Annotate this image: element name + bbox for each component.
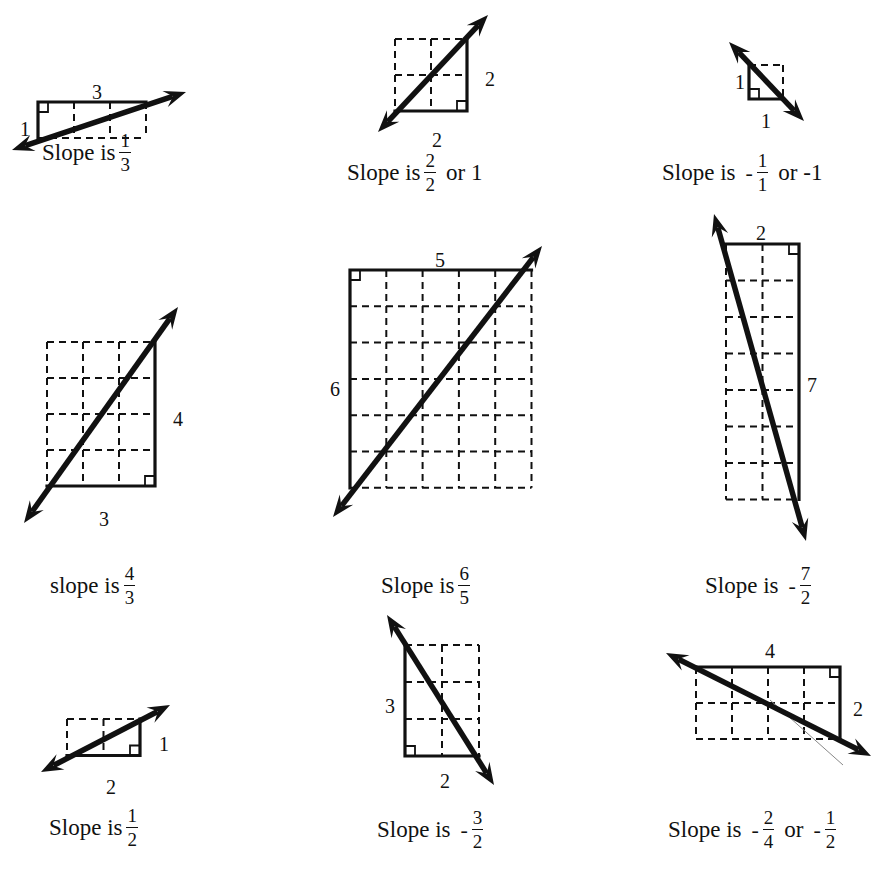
- side-length-label: 1: [20, 118, 30, 140]
- fraction: 3 2: [472, 808, 484, 851]
- side-length-label: 3: [92, 81, 102, 103]
- negative-sign: -: [751, 819, 758, 841]
- caption-prefix: Slope is: [347, 161, 420, 184]
- caption-prefix: Slope is: [381, 574, 454, 597]
- slope-panel-p9: 42: [666, 640, 871, 765]
- caption-prefix: Slope is: [705, 574, 778, 597]
- side-length-label: 2: [485, 68, 495, 90]
- caption-slope-neg-7-2: Slope is - 7 2: [705, 564, 815, 607]
- double-arrow-line: [378, 15, 488, 132]
- slope-panel-p3: 11: [729, 42, 804, 132]
- side-length-label: 4: [173, 408, 183, 430]
- side-length-label: 2: [432, 129, 442, 151]
- negative-sign: -: [813, 819, 820, 841]
- caption-slope-neg-3-2: Slope is - 3 2: [377, 808, 487, 851]
- caption-suffix: or: [784, 818, 803, 841]
- caption-slope-2-2: Slope is 2 2 or 1: [347, 151, 482, 194]
- caption-prefix: Slope is: [662, 161, 735, 184]
- caption-slope-6-5: Slope is 6 5: [381, 564, 474, 607]
- caption-slope-1-3: Slope is 1 3: [42, 131, 135, 174]
- fraction: 4 3: [124, 564, 136, 607]
- slope-panel-p7: 12: [41, 705, 170, 798]
- double-arrow-line: [333, 246, 542, 517]
- double-arrow-line: [41, 705, 170, 772]
- double-arrow-line: [387, 615, 494, 785]
- caption-prefix: Slope is: [49, 816, 122, 839]
- slope-panel-p8: 32: [385, 615, 494, 792]
- fraction: 6 5: [458, 564, 470, 607]
- side-length-label: 2: [440, 770, 450, 792]
- caption-suffix: or 1: [446, 161, 482, 184]
- side-length-label: 2: [756, 222, 766, 244]
- fraction: 2 4: [763, 808, 775, 851]
- caption-slope-neg-1-1: Slope is - 1 1 or -1: [662, 151, 822, 194]
- fraction: 7 2: [800, 564, 812, 607]
- side-length-label: 3: [385, 695, 395, 717]
- side-length-label: 6: [330, 378, 340, 400]
- dashed-grid: [726, 244, 799, 500]
- side-length-label: 4: [765, 640, 775, 662]
- fraction: 1 1: [757, 151, 769, 194]
- slope-panel-p5: 56: [330, 246, 542, 517]
- caption-prefix: Slope is: [42, 141, 115, 164]
- fraction: 1 2: [825, 808, 837, 851]
- side-length-label: 3: [99, 508, 109, 530]
- side-length-label: 1: [159, 733, 169, 755]
- slope-panel-p4: 43: [24, 307, 183, 530]
- slope-panel-p2: 22: [378, 15, 495, 151]
- fraction: 1 2: [126, 806, 138, 849]
- negative-sign: -: [460, 819, 467, 841]
- caption-prefix: Slope is: [668, 818, 741, 841]
- caption-slope-4-3: slope is 4 3: [50, 564, 139, 607]
- caption-suffix: or -1: [778, 161, 822, 184]
- negative-sign: -: [745, 162, 752, 184]
- fraction: 1 3: [119, 131, 131, 174]
- caption-slope-1-2: Slope is 1 2: [49, 806, 142, 849]
- side-length-label: 7: [807, 374, 817, 396]
- fraction: 2 2: [424, 151, 436, 194]
- caption-prefix: slope is: [50, 574, 120, 597]
- side-length-label: 1: [735, 71, 745, 93]
- side-length-label: 2: [106, 776, 116, 798]
- side-length-label: 5: [435, 249, 445, 271]
- side-length-label: 2: [853, 698, 863, 720]
- negative-sign: -: [788, 575, 795, 597]
- slope-panel-p6: 27: [712, 214, 817, 541]
- side-length-label: 1: [761, 110, 771, 132]
- caption-prefix: Slope is: [377, 818, 450, 841]
- caption-slope-neg-2-4: Slope is - 2 4 or - 1 2: [668, 808, 840, 851]
